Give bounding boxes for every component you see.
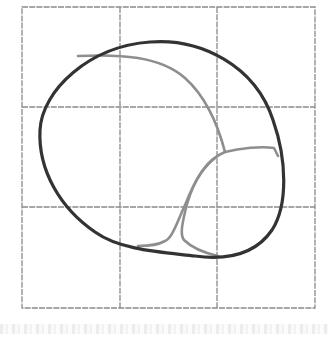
reference-grid bbox=[22, 7, 315, 308]
seam-top bbox=[78, 55, 225, 152]
ball-sketch-figure bbox=[0, 0, 328, 338]
seam-lines bbox=[78, 55, 278, 256]
grid-border bbox=[22, 7, 315, 308]
ball-outline bbox=[40, 42, 284, 258]
seam-right bbox=[225, 147, 278, 156]
scan-noise-strip bbox=[0, 324, 328, 334]
